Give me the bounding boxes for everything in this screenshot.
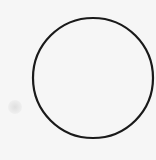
circle-drawing bbox=[0, 0, 156, 160]
paper-smudge bbox=[8, 100, 22, 114]
drawing-canvas bbox=[0, 0, 156, 160]
circle-outline bbox=[33, 18, 153, 138]
